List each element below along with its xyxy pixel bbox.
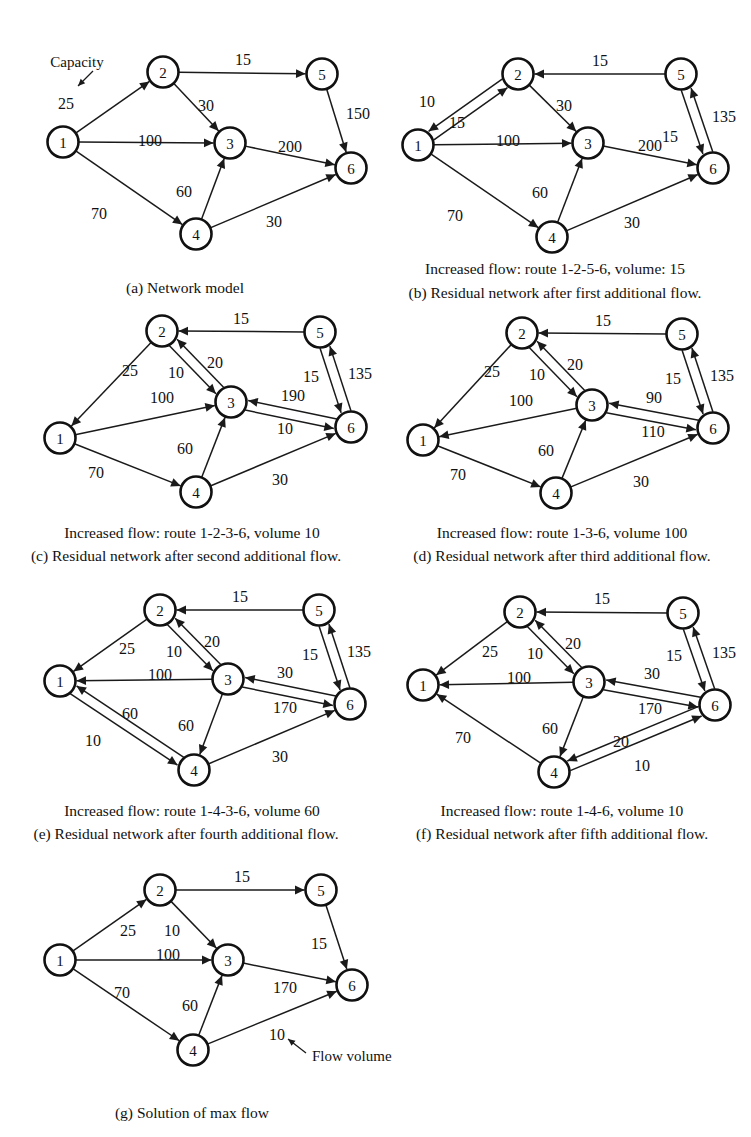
edge-2-to-3: 30 <box>174 83 219 131</box>
node-3[interactable]: 3 <box>215 128 246 159</box>
node-6[interactable]: 6 <box>336 153 367 184</box>
edge-line <box>683 629 704 691</box>
edge-6-to-3: 10 <box>248 398 337 436</box>
node-4[interactable]: 4 <box>181 219 212 250</box>
node-3[interactable]: 3 <box>216 387 247 418</box>
edge-capacity-label: 70 <box>447 207 463 224</box>
node-3[interactable]: 3 <box>573 128 604 159</box>
node-6[interactable]: 6 <box>698 153 729 184</box>
edge-line <box>567 706 698 761</box>
edge-line <box>691 88 713 152</box>
node-label: 2 <box>156 883 164 899</box>
node-label: 1 <box>419 433 427 449</box>
node-2[interactable]: 2 <box>503 59 534 90</box>
node-5[interactable]: 5 <box>666 59 697 90</box>
node-1[interactable]: 1 <box>408 670 439 701</box>
arrowhead-icon <box>436 666 446 675</box>
node-2[interactable]: 2 <box>145 875 176 906</box>
panel-caption-line: (g) Solution of max flow <box>115 1104 270 1122</box>
edge-capacity-label: 15 <box>232 588 248 605</box>
panel-caption-line: Increased flow: route 1-2-5-6, volume: 1… <box>425 260 685 277</box>
node-2[interactable]: 2 <box>145 595 176 626</box>
arrowhead-icon <box>204 138 214 147</box>
arrowhead-icon <box>328 624 336 634</box>
edge-2-to-5: 15 <box>176 868 305 895</box>
edge-5-to-2: 15 <box>177 588 304 615</box>
node-2[interactable]: 2 <box>507 318 538 349</box>
edge-capacity-label: 110 <box>641 423 664 440</box>
node-label: 4 <box>192 485 200 501</box>
node-label: 1 <box>56 953 64 969</box>
node-label: 5 <box>315 603 323 619</box>
node-5[interactable]: 5 <box>306 875 337 906</box>
node-label: 6 <box>711 698 719 714</box>
node-6[interactable]: 6 <box>337 970 368 1001</box>
edge-capacity-label: 100 <box>138 132 162 149</box>
edge-4-to-1: 10 <box>77 686 184 757</box>
node-2[interactable]: 2 <box>148 57 179 88</box>
node-label: 3 <box>224 953 232 969</box>
edge-1-to-3: 100 <box>76 946 212 965</box>
node-5[interactable]: 5 <box>668 598 699 629</box>
node-3[interactable]: 3 <box>574 667 605 698</box>
node-6[interactable]: 6 <box>336 412 367 443</box>
node-1[interactable]: 1 <box>408 425 439 456</box>
edge-line <box>200 694 223 755</box>
node-1[interactable]: 1 <box>45 666 76 697</box>
node-4[interactable]: 4 <box>539 757 570 788</box>
network-panel-f: 25151020100301701513570602010123456Incre… <box>370 565 751 875</box>
edge-capacity-label: 70 <box>455 729 471 746</box>
node-3[interactable]: 3 <box>577 390 608 421</box>
arrowhead-icon <box>73 662 83 671</box>
arrowhead-icon <box>696 144 704 154</box>
node-4[interactable]: 4 <box>537 222 568 253</box>
edge-capacity-label: 135 <box>347 643 371 660</box>
node-6[interactable]: 6 <box>698 413 729 444</box>
node-4[interactable]: 4 <box>179 755 210 786</box>
node-5[interactable]: 5 <box>304 595 335 626</box>
arrowhead-icon <box>248 398 258 407</box>
edge-capacity-label: 100 <box>150 389 174 406</box>
edge-capacity-label: 200 <box>278 138 302 155</box>
node-4[interactable]: 4 <box>181 477 212 508</box>
edge-capacity-label: 10 <box>269 1026 285 1043</box>
node-5[interactable]: 5 <box>667 319 698 350</box>
node-5[interactable]: 5 <box>307 59 338 90</box>
edge-capacity-label: 100 <box>148 666 172 683</box>
edge-capacity-label: 25 <box>119 640 135 657</box>
node-2[interactable]: 2 <box>505 597 536 628</box>
arrowhead-icon <box>139 81 149 90</box>
edge-3-to-1: 100 <box>439 669 573 689</box>
edge-capacity-label: 60 <box>542 720 558 737</box>
arrowhead-icon <box>536 608 546 617</box>
node-5[interactable]: 5 <box>305 317 336 348</box>
node-3[interactable]: 3 <box>213 664 244 695</box>
arrowhead-icon <box>76 676 86 685</box>
edge-capacity-label: 100 <box>509 392 533 409</box>
edge-capacity-label: 170 <box>638 700 662 717</box>
edge-line <box>558 158 583 222</box>
edge-2-to-1: 25 <box>71 342 151 426</box>
edge-line <box>178 331 304 332</box>
node-1[interactable]: 1 <box>45 945 76 976</box>
edge-4-to-6: 30 <box>210 433 335 488</box>
node-3[interactable]: 3 <box>213 945 244 976</box>
node-1[interactable]: 1 <box>45 423 76 454</box>
edge-capacity-label: 60 <box>538 442 554 459</box>
node-1[interactable]: 1 <box>403 130 434 161</box>
node-2[interactable]: 2 <box>147 316 178 347</box>
node-1[interactable]: 1 <box>48 127 79 158</box>
arrowhead-icon <box>690 88 698 98</box>
edge-2-to-5: 15 <box>178 51 305 79</box>
node-6[interactable]: 6 <box>335 689 366 720</box>
edge-line <box>682 350 703 414</box>
edge-capacity-label: 25 <box>484 363 500 380</box>
node-4[interactable]: 4 <box>178 1035 209 1066</box>
edge-1-to-4: 60 <box>70 694 177 765</box>
node-4[interactable]: 4 <box>541 478 572 509</box>
edge-3-to-6: 170 <box>243 963 336 995</box>
arrowhead-icon <box>687 159 697 168</box>
edge-capacity-label: 135 <box>712 108 736 125</box>
arrowhead-icon <box>429 122 439 131</box>
node-6[interactable]: 6 <box>700 690 731 721</box>
